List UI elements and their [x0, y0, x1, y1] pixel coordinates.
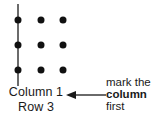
grid-dot	[60, 17, 67, 24]
grid-dot	[60, 67, 67, 74]
grid-coordinate-labels: Column 1 Row 3	[0, 85, 72, 115]
row-label: Row 3	[0, 100, 72, 115]
grid-dot	[60, 42, 67, 49]
grid-dot	[15, 67, 22, 74]
callout-annotation: mark the column first	[106, 77, 162, 113]
dot-grid	[0, 0, 85, 90]
callout-line-3: first	[106, 101, 162, 113]
grid-dot	[38, 67, 45, 74]
callout-line-1: mark the	[106, 77, 162, 89]
grid-dot	[15, 17, 22, 24]
grid-dot	[38, 42, 45, 49]
callout-line-2: column	[106, 89, 162, 101]
column-label: Column 1	[0, 85, 72, 100]
grid-dot	[15, 42, 22, 49]
grid-dot	[38, 17, 45, 24]
diagram-canvas: Column 1 Row 3 mark the column first	[0, 0, 162, 134]
callout-arrow-icon	[66, 91, 106, 99]
